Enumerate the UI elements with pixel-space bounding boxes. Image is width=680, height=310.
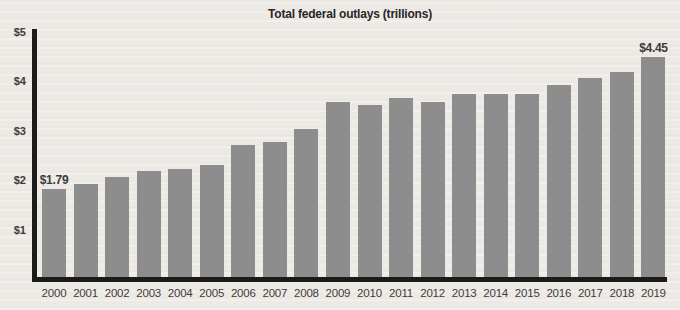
bar-2000 xyxy=(42,189,66,277)
bar-2004 xyxy=(168,169,192,277)
y-tick-label: $2 xyxy=(0,174,26,186)
x-axis-label: 2007 xyxy=(259,287,291,299)
x-axis-label: 2019 xyxy=(637,287,669,299)
bar-2013 xyxy=(452,94,476,277)
bar-2007 xyxy=(263,142,287,277)
bar-2005 xyxy=(200,165,224,277)
x-axis-label: 2010 xyxy=(354,287,386,299)
bar-2001 xyxy=(74,184,98,277)
bar-2006 xyxy=(231,145,255,277)
x-axis-label: 2017 xyxy=(574,287,606,299)
bar-value-label: $1.79 xyxy=(34,173,74,187)
bar-2009 xyxy=(326,102,350,277)
y-tick-label: $1 xyxy=(0,224,26,236)
x-axis-line xyxy=(32,277,667,282)
bar-2016 xyxy=(547,85,571,277)
bar-value-label: $4.45 xyxy=(633,41,673,55)
bar-2011 xyxy=(389,98,413,277)
bar-2012 xyxy=(421,102,445,277)
x-axis-label: 2009 xyxy=(322,287,354,299)
x-axis-label: 2012 xyxy=(417,287,449,299)
bar-2018 xyxy=(610,72,634,277)
x-axis-label: 2000 xyxy=(38,287,70,299)
bar-2015 xyxy=(515,94,539,277)
bar-2003 xyxy=(137,171,161,277)
x-axis-label: 2005 xyxy=(196,287,228,299)
bar-2019 xyxy=(641,57,665,277)
bar-2002 xyxy=(105,177,129,277)
x-axis-label: 2004 xyxy=(164,287,196,299)
bar-2008 xyxy=(294,129,318,277)
x-axis-label: 2018 xyxy=(606,287,638,299)
x-axis-label: 2003 xyxy=(133,287,165,299)
x-axis-label: 2008 xyxy=(290,287,322,299)
bar-2014 xyxy=(484,94,508,277)
y-tick-label: $3 xyxy=(0,125,26,137)
x-axis-label: 2006 xyxy=(227,287,259,299)
bar-2017 xyxy=(578,78,602,277)
x-axis-label: 2014 xyxy=(480,287,512,299)
y-tick-label: $5 xyxy=(0,26,26,38)
x-axis-label: 2001 xyxy=(70,287,102,299)
federal-outlays-bar-chart: Total federal outlays (trillions) $5$4$3… xyxy=(0,0,680,310)
x-axis-label: 2002 xyxy=(101,287,133,299)
bar-2010 xyxy=(358,105,382,277)
x-axis-label: 2013 xyxy=(448,287,480,299)
chart-title: Total federal outlays (trillions) xyxy=(32,7,668,21)
x-axis-label: 2016 xyxy=(543,287,575,299)
x-axis-label: 2015 xyxy=(511,287,543,299)
x-axis-label: 2011 xyxy=(385,287,417,299)
y-tick-label: $4 xyxy=(0,75,26,87)
y-axis-line xyxy=(32,29,37,281)
